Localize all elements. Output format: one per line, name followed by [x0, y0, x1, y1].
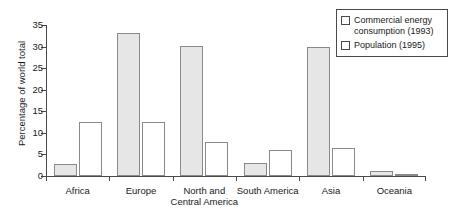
open-square-icon	[341, 16, 350, 25]
bar	[142, 122, 165, 176]
bar	[180, 46, 203, 176]
legend: Commercial energy consumption (1993) Pop…	[336, 9, 448, 57]
x-category-label: Asia	[322, 185, 340, 196]
bar	[370, 171, 393, 176]
legend-item-commercial-energy: Commercial energy consumption (1993)	[341, 15, 443, 36]
x-category-label: North and Central America	[171, 185, 239, 207]
y-axis-title: Percentage of world total	[16, 19, 27, 169]
y-tick-label: 10	[32, 128, 43, 138]
x-tick	[236, 176, 237, 181]
y-tick-label: 30	[32, 42, 43, 52]
legend-item-population: Population (1995)	[341, 40, 443, 51]
y-tick-label: 5	[38, 150, 43, 160]
bar-chart: Percentage of world total 05101520253035…	[0, 0, 452, 218]
bar	[244, 163, 267, 176]
bar	[395, 174, 418, 176]
legend-item-label: Population (1995)	[354, 40, 443, 51]
bar	[332, 148, 355, 176]
y-tick-label: 0	[38, 171, 43, 181]
bar	[54, 164, 77, 176]
bar	[79, 122, 102, 176]
bar	[205, 142, 228, 177]
x-tick	[46, 176, 47, 181]
bar	[269, 150, 292, 176]
x-tick	[173, 176, 174, 181]
x-category-label: Africa	[66, 185, 90, 196]
x-tick	[363, 176, 364, 181]
x-category-label: Oceania	[377, 185, 412, 196]
bar	[307, 47, 330, 176]
open-square-icon	[341, 41, 350, 50]
x-tick	[425, 176, 426, 181]
y-tick-label: 20	[32, 85, 43, 95]
y-tick-label: 35	[32, 20, 43, 30]
y-tick-label: 15	[32, 107, 43, 117]
x-tick	[109, 176, 110, 181]
legend-item-label: Commercial energy consumption (1993)	[354, 15, 443, 36]
x-category-label: South America	[237, 185, 299, 196]
bar	[117, 33, 140, 176]
y-tick-label: 25	[32, 63, 43, 73]
x-tick	[299, 176, 300, 181]
y-axis-line	[46, 25, 47, 177]
x-category-label: Europe	[126, 185, 157, 196]
